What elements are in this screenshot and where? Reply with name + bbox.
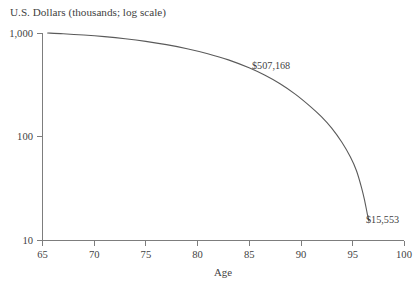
y-axis-ticks xyxy=(37,34,43,241)
line-chart: U.S. Dollars (thousands; log scale) 1,00… xyxy=(0,0,420,288)
y-tick-label-1000: 1,000 xyxy=(9,28,33,39)
x-tick-label-95: 95 xyxy=(347,249,358,260)
chart-container: U.S. Dollars (thousands; log scale) 1,00… xyxy=(0,0,420,288)
x-tick-label-75: 75 xyxy=(141,249,152,260)
y-tick-label-100: 100 xyxy=(17,131,33,142)
x-axis-title: Age xyxy=(214,266,232,278)
x-tick-label-70: 70 xyxy=(89,249,100,260)
balance-curve xyxy=(48,33,369,221)
chart-title: U.S. Dollars (thousands; log scale) xyxy=(10,6,166,19)
x-tick-label-65: 65 xyxy=(37,249,48,260)
x-axis-ticks xyxy=(43,241,405,247)
x-tick-label-100: 100 xyxy=(396,249,412,260)
axis-spines xyxy=(43,33,405,241)
x-tick-label-80: 80 xyxy=(192,249,203,260)
annotation-label-15553: $15,553 xyxy=(366,214,399,225)
x-axis-labels: 65 70 75 80 85 90 95 100 xyxy=(37,249,412,260)
y-axis-labels: 1,000 100 10 xyxy=(9,28,33,246)
x-tick-label-90: 90 xyxy=(296,249,307,260)
annotation-label-507168: $507,168 xyxy=(252,60,290,71)
x-tick-label-85: 85 xyxy=(244,249,255,260)
y-tick-label-10: 10 xyxy=(22,235,33,246)
